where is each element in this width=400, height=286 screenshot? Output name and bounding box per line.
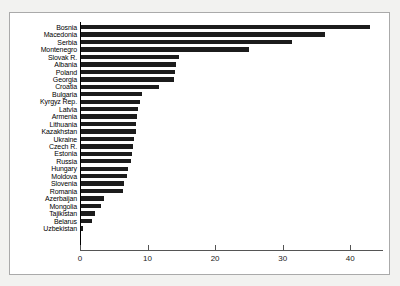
x-tick-mark-30 (283, 245, 284, 250)
chart-screenshot: BosniaMacedoniaSerbiaMontenegroSlovak R.… (0, 0, 400, 286)
x-tick-label-20: 20 (211, 254, 220, 264)
x-tick-mark-20 (215, 245, 216, 250)
x-tick-label-40: 40 (346, 254, 355, 264)
x-tick-mark-40 (350, 245, 351, 250)
x-tick-label-0: 0 (78, 254, 82, 264)
x-tick-mark-10 (148, 245, 149, 250)
x-tick-label-30: 30 (278, 254, 287, 264)
x-tick-label-10: 10 (143, 254, 152, 264)
x-axis-ticks-layer: 010203040 (0, 0, 400, 286)
x-tick-mark-0 (80, 245, 81, 250)
